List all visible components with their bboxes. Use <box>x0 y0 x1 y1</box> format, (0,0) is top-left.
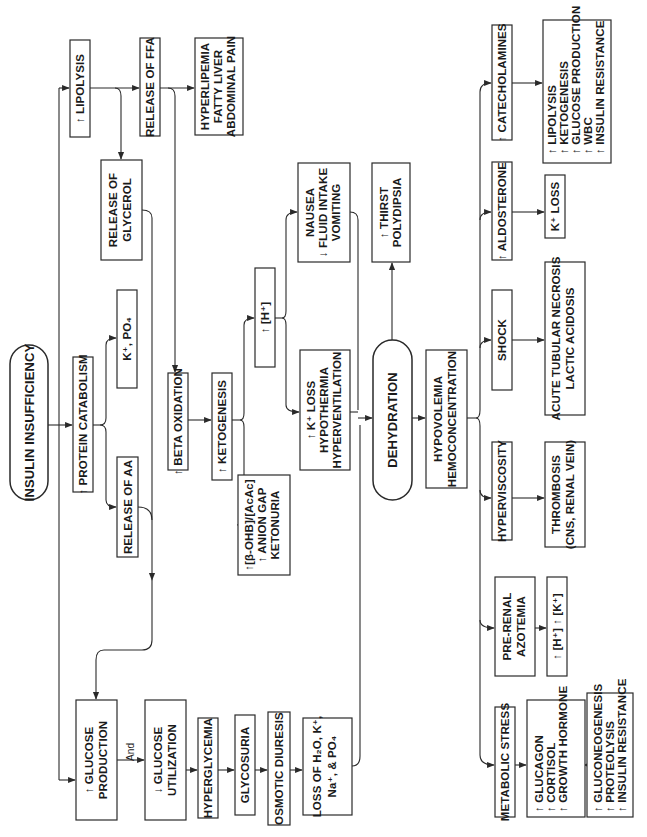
line-2: Na⁺, & PO₄ <box>326 736 338 798</box>
label: ↑ [H⁺] ↑ [K⁺] <box>551 593 563 660</box>
label: K⁺, PO₄ <box>121 317 133 361</box>
line-2: UTILIZATION <box>166 724 178 796</box>
line-5: ↑ INSULIN RESISTANCE <box>594 20 606 154</box>
node-thirst: ↑ THIRST POLYDIPSIA <box>372 163 410 262</box>
label: ↑ LIPOLYSIS <box>74 54 86 123</box>
node-thrombosis: THROMBOSIS (CNS, RENAL VEIN) <box>545 440 585 550</box>
line-3: ABDOMINAL PAIN <box>225 36 237 137</box>
node-hyperglycemia: HYPERGLYCEMIA <box>198 718 218 819</box>
node-prerenal-azotemia: PRE-RENAL AZOTEMIA <box>495 577 535 676</box>
node-k-po4: K⁺, PO₄ <box>117 290 137 388</box>
label: ↑ BETA OXIDATION <box>172 368 184 475</box>
node-k-loss: K⁺ LOSS <box>545 175 565 238</box>
label: OSMOTIC DIURESIS <box>273 712 285 825</box>
line-2: POLYDIPSIA <box>391 178 403 248</box>
node-fluid-loss: LOSS OF H₂O, K⁺, Na⁺, & PO₄ <box>303 716 352 818</box>
line-1: NAUSEA <box>304 188 316 237</box>
node-hormones: ↑ GLUCAGON ↑ CORTISOL ↑ GROWTH HORMONE <box>527 686 585 817</box>
line-3: ↑ GLUCOSE PRODUCTION <box>570 6 582 154</box>
node-shock: SHOCK <box>492 290 512 390</box>
label: GLYCOSURIA <box>239 727 251 804</box>
node-glucose-utilization: ↓ GLUCOSE UTILIZATION <box>145 700 186 820</box>
label: METABOLIC STRESS <box>499 703 511 822</box>
node-h-k: ↑ [H⁺] ↑ [K⁺] <box>547 577 567 676</box>
line-1: HYPOVOLEMIA <box>432 376 444 462</box>
node-lipolysis: ↑ LIPOLYSIS <box>70 40 90 137</box>
node-beta-oxidation: ↑ BETA OXIDATION <box>168 368 188 475</box>
line-1: ↑ THIRST <box>378 187 390 238</box>
line-2: ↑ CORTISOL <box>545 743 557 812</box>
label: HYPERVISCOSITY <box>496 440 508 542</box>
line-1: ↑ GLUCAGON <box>533 735 545 812</box>
line-1: PRE-RENAL <box>501 593 513 661</box>
node-ketogenesis: ↑ KETOGENESIS <box>212 373 232 480</box>
node-hyperviscosity: HYPERVISCOSITY <box>492 440 512 542</box>
node-release-glycerol: RELEASE OF GLYCEROL <box>101 160 142 260</box>
label: ↑ PROTEIN CATABOLISM <box>77 354 89 494</box>
node-k-loss-hypothermia: ↑ K⁺ LOSS HYPOTHERMIA HYPERVENTILATION <box>300 350 350 470</box>
node-hormone-effects: ↑ GLUCONEOGENESIS ↑ PROTEOLYSIS ↑ INSULI… <box>587 678 633 817</box>
line-1: ↑ GLUCOSE <box>83 726 95 793</box>
label: ↑ ALDOSTERONE <box>496 162 508 260</box>
line-2: ↑ KETOGENESIS <box>558 61 570 154</box>
line-2: PRODUCTION <box>97 721 109 799</box>
line-1: ACUTE TUBULAR NECROSIS <box>550 256 562 420</box>
line-3: VOMITING <box>330 184 342 242</box>
label: HYPERGLYCEMIA <box>202 718 214 819</box>
line-1: ↑[β-OHB]/[AcAc] <box>243 479 255 571</box>
line-2: HEMOCONCENTRATION <box>446 351 458 487</box>
node-ketone-markers: ↑[β-OHB]/[AcAc] ↑ ANION GAP KETONURIA <box>238 475 290 575</box>
line-1: HYPERLIPEMIA <box>199 43 211 130</box>
node-catecholamine-effects: ↑ LIPOLYSIS ↑ KETOGENESIS ↑ GLUCOSE PROD… <box>543 6 611 163</box>
node-metabolic-stress: METABOLIC STRESS <box>495 703 515 822</box>
label: ↑ [H⁺] <box>259 302 271 334</box>
line-2: AZOTEMIA <box>515 596 527 657</box>
line-1: ↑ K⁺ LOSS <box>305 380 317 439</box>
line-1: ↓ GLUCOSE <box>152 726 164 793</box>
node-osmotic-diuresis: OSMOTIC DIURESIS <box>268 712 290 825</box>
node-catecholamines: ↑ CATECHOLAMINES <box>492 23 512 142</box>
line-2: ↑ PROTEOLYSIS <box>604 721 616 812</box>
label: DEHYDRATION <box>385 372 400 467</box>
label: SHOCK <box>496 318 508 361</box>
node-release-ffa: RELEASE OF FFA <box>140 37 160 137</box>
line-3: ↑ INSULIN RESISTANCE <box>616 678 628 812</box>
label: ↑ CATECHOLAMINES <box>496 23 508 142</box>
label: RELEASE OF AA <box>122 460 134 554</box>
label: K⁺ LOSS <box>549 181 561 231</box>
node-insulin-insufficiency: INSULIN INSUFFICIENCY <box>10 344 48 502</box>
node-hypovolemia: HYPOVOLEMIA HEMOCONCENTRATION <box>426 350 467 488</box>
line-2: LACTIC ACIDOSIS <box>564 287 576 389</box>
line-2: (CNS, RENAL VEIN) <box>564 440 576 550</box>
line-4: ↑ WBC <box>582 117 594 154</box>
line-1: LOSS OF H₂O, K⁺, <box>311 716 323 818</box>
label: RELEASE OF FFA <box>144 37 156 137</box>
label: INSULIN INSUFFICIENCY <box>22 344 37 502</box>
node-glucose-production: ↑ GLUCOSE PRODUCTION <box>76 700 117 820</box>
node-aldosterone: ↑ ALDOSTERONE <box>492 162 512 260</box>
line-3: ↑ GROWTH HORMONE <box>557 686 569 812</box>
flowchart-canvas: INSULIN INSUFFICIENCY ↑ LIPOLYSIS RELEAS… <box>0 0 647 837</box>
line-2: HYPOTHERMIA <box>318 367 330 453</box>
line-1: ↑ GLUCONEOGENESIS <box>592 684 604 812</box>
line-1: ↑ LIPOLYSIS <box>546 85 558 154</box>
node-hyperlipemia: HYPERLIPEMIA FATTY LIVER ABDOMINAL PAIN <box>195 36 243 137</box>
node-hydrogen-ion: ↑ [H⁺] <box>255 268 275 367</box>
and-connector-label: And <box>125 743 136 761</box>
line-2: ↑ ANION GAP <box>256 487 268 562</box>
label: ↑ KETOGENESIS <box>216 380 228 473</box>
node-release-aa: RELEASE OF AA <box>117 457 138 557</box>
line-3: KETONURIA <box>269 490 281 559</box>
line-2: GLYCEROL <box>121 178 133 242</box>
line-2: FATTY LIVER <box>212 49 224 123</box>
node-protein-catabolism: ↑ PROTEIN CATABOLISM <box>73 354 93 494</box>
node-glycosuria: GLYCOSURIA <box>235 715 255 815</box>
node-nausea: NAUSEA ↓ FLUID INTAKE VOMITING <box>298 163 350 262</box>
node-dehydration: DEHYDRATION <box>373 340 412 500</box>
line-3: HYPERVENTILATION <box>331 352 343 469</box>
line-2: ↓ FLUID INTAKE <box>317 168 329 258</box>
line-1: THROMBOSIS <box>550 455 562 534</box>
node-atn: ACUTE TUBULAR NECROSIS LACTIC ACIDOSIS <box>545 256 585 420</box>
line-1: RELEASE OF <box>107 173 119 247</box>
